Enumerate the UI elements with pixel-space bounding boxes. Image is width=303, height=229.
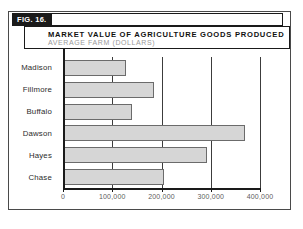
- x-axis-tick: [112, 188, 113, 192]
- x-gridline: [211, 57, 212, 188]
- plot-area: [63, 57, 260, 188]
- x-axis-tick-label: 100,000: [99, 193, 126, 200]
- x-axis-tick-label: 400,000: [247, 193, 274, 200]
- category-label: Dawson: [23, 129, 52, 138]
- category-axis-labels: MadisonFillmoreBuffaloDawsonHayesChase: [0, 57, 58, 188]
- bar: [63, 169, 164, 185]
- page-title: MARKET VALUE OF AGRICULTURE GOODS PRODUC…: [48, 30, 284, 39]
- x-axis-tick-label: 0: [61, 193, 65, 200]
- figure-root: FIG. 16. MARKET VALUE OF AGRICULTURE GOO…: [0, 0, 303, 229]
- bar: [63, 147, 207, 163]
- category-label: Fillmore: [23, 85, 52, 94]
- category-label: Buffalo: [26, 107, 52, 116]
- x-axis-tick: [260, 188, 261, 192]
- category-label: Madison: [21, 63, 52, 72]
- bar: [63, 82, 154, 98]
- y-axis-line: [63, 49, 65, 188]
- bar: [63, 60, 126, 76]
- bar: [63, 125, 245, 141]
- x-gridline: [260, 57, 261, 188]
- category-label: Chase: [28, 173, 52, 182]
- x-axis-tick: [63, 188, 64, 192]
- bar: [63, 104, 132, 120]
- x-axis-tick: [162, 188, 163, 192]
- figure-title-box: MARKET VALUE OF AGRICULTURE GOODS PRODUC…: [24, 26, 290, 49]
- figure-subtitle: AVERAGE FARM (DOLLARS): [48, 39, 155, 46]
- x-axis-tick: [211, 188, 212, 192]
- figure-header-strip: [12, 13, 283, 26]
- x-axis-tick-label: 300,000: [197, 193, 224, 200]
- figure-number-label: FIG. 16.: [12, 13, 52, 26]
- x-axis-tick-label: 200,000: [148, 193, 175, 200]
- category-label: Hayes: [29, 151, 52, 160]
